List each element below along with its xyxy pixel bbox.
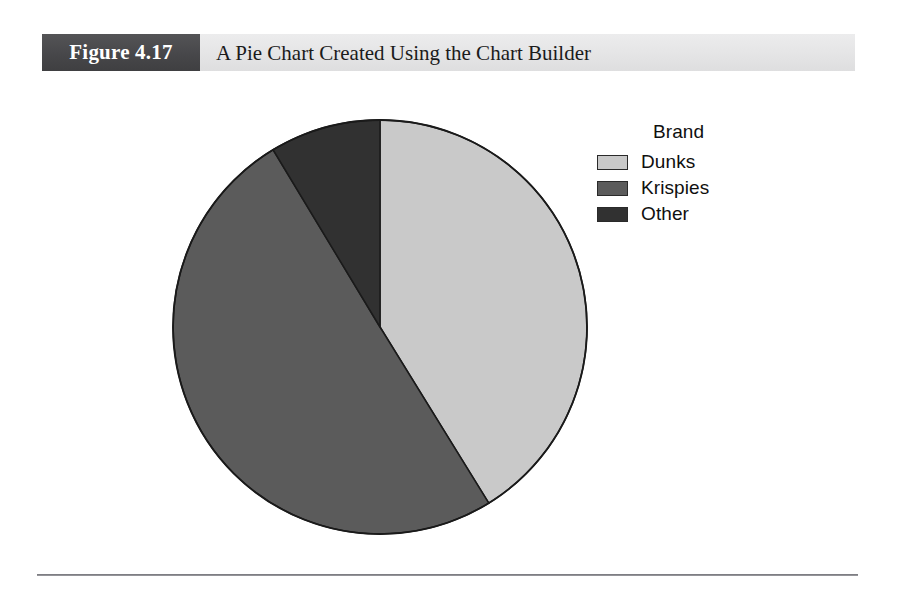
legend-label-krispies: Krispies [641,177,709,199]
legend-title: Brand [653,121,807,143]
legend-item-dunks[interactable]: Dunks [597,150,807,174]
legend-item-krispies[interactable]: Krispies [597,176,807,200]
legend-swatch-krispies [597,181,628,196]
chart-area: Brand Dunks Krispies Other [42,86,858,556]
figure-footer-rule [37,574,858,576]
legend-item-other[interactable]: Other [597,202,807,226]
legend-swatch-dunks [597,155,628,170]
figure-number-label: Figure 4.17 [42,34,200,71]
chart-legend: Brand Dunks Krispies Other [597,121,807,228]
legend-label-other: Other [641,203,689,225]
legend-label-dunks: Dunks [641,151,695,173]
pie-slice-group [173,120,587,534]
figure-caption-header: Figure 4.17 A Pie Chart Created Using th… [42,34,855,71]
figure-caption-title: A Pie Chart Created Using the Chart Buil… [216,34,591,71]
legend-swatch-other [597,207,628,222]
